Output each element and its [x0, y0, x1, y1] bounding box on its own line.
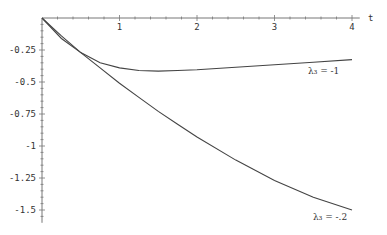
y-tick-label: -0.25: [9, 45, 36, 55]
y-tick-label: -1.5: [14, 205, 36, 215]
y-tick-label: -1: [25, 141, 36, 151]
label-lambda3-minus-0-2: λ₃ = -.2: [313, 212, 347, 222]
x-tick-label: 1: [117, 22, 122, 32]
y-tick-label: -0.5: [14, 77, 36, 87]
curve-labels: λ₃ = -1λ₃ = -.2: [308, 66, 347, 222]
y-tick-label: -0.75: [9, 109, 36, 119]
curves: [42, 18, 352, 210]
line-chart: 1234t-0.25-0.5-0.75-1-1.25-1.5 λ₃ = -1λ₃…: [0, 0, 387, 235]
x-tick-label: 4: [349, 22, 354, 32]
label-lambda3-minus-1: λ₃ = -1: [308, 66, 339, 76]
x-axis-label: t: [368, 13, 373, 23]
axes: 1234t-0.25-0.5-0.75-1-1.25-1.5: [9, 13, 374, 223]
x-tick-label: 2: [194, 22, 199, 32]
y-tick-label: -1.25: [9, 173, 36, 183]
curve-lambda3-minus-0-2: [42, 18, 352, 210]
x-tick-label: 3: [272, 22, 277, 32]
